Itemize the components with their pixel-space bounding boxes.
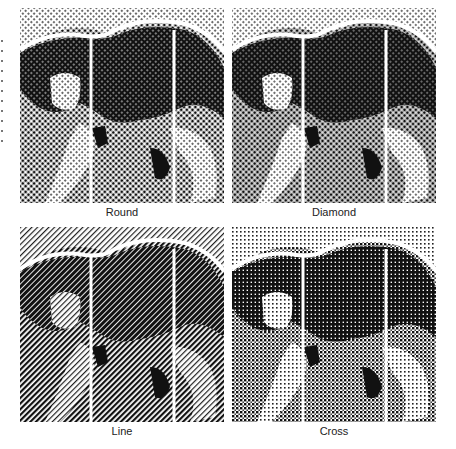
caption-diamond: Diamond [232,206,436,218]
halftone-image [232,227,436,422]
halftone-image [232,8,436,203]
halftone-sample-line [20,227,224,422]
caption-cross: Cross [232,425,436,437]
halftone-image [20,8,224,203]
caption-round: Round [20,206,224,218]
halftone-image [20,227,224,422]
cropped-margin-text [0,40,4,150]
caption-line: Line [20,425,224,437]
halftone-sample-round [20,8,224,203]
halftone-sample-cross [232,227,436,422]
halftone-sample-diamond [232,8,436,203]
